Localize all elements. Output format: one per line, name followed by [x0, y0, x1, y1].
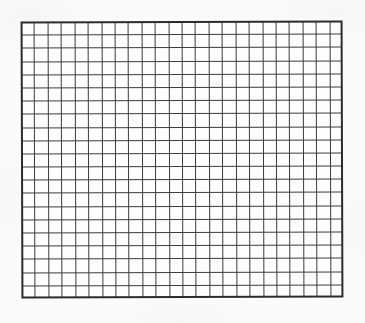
grid-lines: [21, 20, 344, 298]
grid-vertical-line: [115, 21, 117, 298]
grid-vertical-line: [209, 21, 211, 298]
grid-vertical-line: [155, 21, 157, 298]
grid-surface: [21, 20, 344, 298]
grid-vertical-line: [222, 21, 224, 298]
grid-vertical-line: [236, 21, 238, 298]
grid-vertical-line: [61, 21, 63, 298]
grid-vertical-line: [289, 21, 291, 298]
grid-paper: [21, 20, 344, 298]
grid-vertical-line: [316, 21, 318, 298]
grid-vertical-line: [34, 21, 36, 298]
grid-vertical-line: [182, 21, 184, 298]
grid-vertical-line: [303, 21, 305, 298]
grid-vertical-line: [276, 21, 278, 298]
scanned-page: Grid Paper Sheet A scanned sheet of squa…: [0, 0, 365, 323]
grid-vertical-line: [88, 21, 90, 298]
grid-vertical-line: [142, 21, 144, 298]
grid-vertical-line: [263, 21, 265, 298]
grid-vertical-line: [102, 21, 104, 298]
grid-vertical-line: [75, 21, 77, 298]
grid-vertical-line: [330, 21, 332, 298]
grid-vertical-line: [169, 21, 171, 298]
grid-vertical-line: [249, 21, 251, 298]
grid-vertical-line: [48, 21, 50, 298]
grid-vertical-line: [128, 21, 130, 298]
grid-vertical-line: [195, 21, 197, 298]
